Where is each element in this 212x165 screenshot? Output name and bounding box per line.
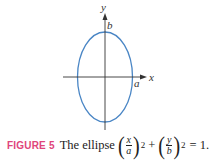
plus-sign: + [148, 138, 155, 153]
ellipse-figure: x y b a [0, 0, 212, 130]
fraction-x-over-a: x a [126, 135, 132, 156]
point-label-b: b [107, 19, 113, 31]
point-label-a: a [134, 77, 140, 89]
exponent: 2 [141, 140, 146, 150]
exponent: 2 [181, 140, 186, 150]
figure-label: FIGURE 5 [7, 140, 55, 151]
caption-text: The ellipse [60, 138, 115, 153]
equation-rhs: = 1. [190, 138, 210, 153]
fraction-y-over-b: y b [166, 135, 172, 156]
figure-caption: FIGURE 5 The ellipse ( x a ) 2 + ( y b )… [7, 130, 212, 160]
y-axis-label: y [100, 1, 106, 13]
x-axis-arrow-icon [140, 75, 147, 80]
x-axis-label: x [148, 71, 154, 83]
